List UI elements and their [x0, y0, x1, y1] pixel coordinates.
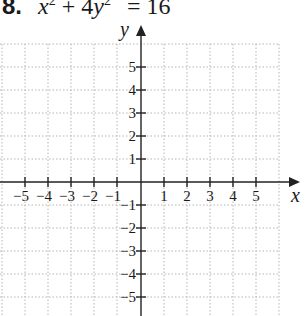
y-axis-arrow-icon — [136, 25, 146, 36]
y-tick-label: −2 — [120, 220, 136, 236]
x-axis-label: x — [290, 184, 300, 206]
x-tick-label: 4 — [229, 188, 237, 204]
y-tick-label: −5 — [120, 289, 136, 305]
y-axis-label: y — [118, 18, 129, 41]
x-tick-label: −5 — [13, 188, 29, 204]
y-tick-label: 4 — [129, 82, 137, 98]
x-tick-label: 3 — [206, 188, 214, 204]
y-tick-label: −4 — [120, 266, 136, 282]
x-tick-label: −3 — [59, 188, 75, 204]
coordinate-plane: x y −5 −4 −3 −2 −1 1 2 3 4 5 5 4 3 2 1 −… — [0, 0, 306, 316]
y-tick-label: 3 — [129, 105, 137, 121]
x-tick-label: 2 — [183, 188, 191, 204]
y-axis — [136, 34, 146, 316]
x-axis — [0, 177, 292, 187]
x-tick-label: 1 — [160, 188, 168, 204]
x-tick-label: −1 — [105, 188, 121, 204]
y-tick-label: −1 — [120, 197, 136, 213]
x-tick-labels: −5 −4 −3 −2 −1 1 2 3 4 5 — [13, 188, 260, 204]
y-tick-label: −3 — [120, 243, 136, 259]
y-tick-label: 1 — [129, 151, 137, 167]
x-tick-label: −4 — [36, 188, 52, 204]
x-tick-label: 5 — [252, 188, 260, 204]
x-tick-label: −2 — [82, 188, 98, 204]
y-tick-label: 2 — [129, 128, 137, 144]
grid — [0, 44, 280, 316]
y-tick-label: 5 — [129, 59, 137, 75]
